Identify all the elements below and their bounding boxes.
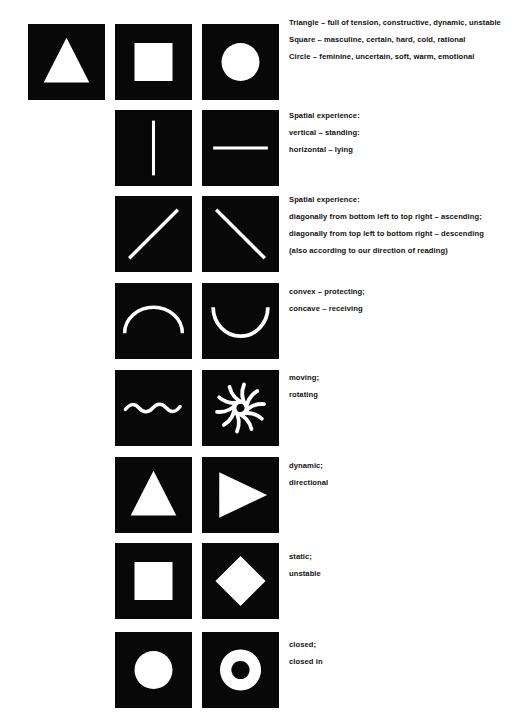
convex-arc-tile	[115, 283, 192, 359]
caption-line: convex – protecting;	[289, 288, 527, 296]
diagonal-descending-icon	[202, 196, 279, 272]
wave-tile	[115, 370, 192, 446]
arc-concave-icon	[202, 283, 279, 359]
caption-line: dynamic;	[289, 462, 527, 470]
shape-semantics-sheet: Triangle – full of tension, constructive…	[0, 0, 530, 722]
vertical-line-icon	[115, 110, 192, 186]
concave-arc-tile	[202, 283, 279, 359]
row-moving-rotating-caption: moving;rotating	[289, 374, 527, 399]
caption-line: moving;	[289, 374, 527, 382]
caption-line: rotating	[289, 391, 527, 399]
rightward-triangle-tile	[202, 457, 279, 533]
caption-line: unstable	[289, 570, 527, 578]
caption-line: Spatial experience:	[289, 196, 527, 204]
caption-line: closed in	[289, 658, 527, 666]
caption-line: horizontal – lying	[289, 146, 527, 154]
ring-icon	[202, 632, 279, 708]
triangle-tile	[28, 24, 105, 100]
horizontal-line-icon	[202, 110, 279, 186]
upward-triangle-tile	[115, 457, 192, 533]
caption-line: closed;	[289, 641, 527, 649]
caption-line: (also according to our direction of read…	[289, 247, 527, 255]
caption-line: diagonally from bottom left to top right…	[289, 213, 527, 221]
vertical-line-tile	[115, 110, 192, 186]
square-static-tile	[115, 543, 192, 619]
pinwheel-icon	[202, 370, 279, 446]
descending-diagonal-tile	[202, 196, 279, 272]
caption-line: static;	[289, 553, 527, 561]
row-dynamic-directional-caption: dynamic;directional	[289, 462, 527, 487]
caption-line: Circle – feminine, uncertain, soft, warm…	[289, 53, 527, 61]
circle-icon	[202, 24, 279, 100]
ring-tile	[202, 632, 279, 708]
horizontal-line-tile	[202, 110, 279, 186]
wave-icon	[115, 370, 192, 446]
circle-tile	[202, 24, 279, 100]
square-icon	[115, 543, 192, 619]
row-closed-closed-in-caption: closed;closed in	[289, 641, 527, 666]
row-static-unstable-caption: static;unstable	[289, 553, 527, 578]
caption-line: Spatial experience:	[289, 112, 527, 120]
row-convex-concave-caption: convex – protecting;concave – receiving	[289, 288, 527, 313]
caption-line: diagonally from top left to bottom right…	[289, 230, 527, 238]
caption-line: directional	[289, 479, 527, 487]
square-icon	[115, 24, 192, 100]
caption-line: Square – masculine, certain, hard, cold,…	[289, 36, 527, 44]
triangle-right-icon	[202, 457, 279, 533]
row-vertical-horizontal-caption: Spatial experience:vertical – standing:h…	[289, 112, 527, 154]
diagonal-ascending-icon	[115, 196, 192, 272]
circle-icon	[115, 632, 192, 708]
triangle-icon	[115, 457, 192, 533]
triangle-icon	[28, 24, 105, 100]
caption-line: concave – receiving	[289, 305, 527, 313]
disc-tile	[115, 632, 192, 708]
diamond-icon	[202, 543, 279, 619]
arc-convex-icon	[115, 283, 192, 359]
square-tile	[115, 24, 192, 100]
row-diagonals-caption: Spatial experience:diagonally from botto…	[289, 196, 527, 255]
diamond-tile	[202, 543, 279, 619]
caption-line: vertical – standing:	[289, 129, 527, 137]
ascending-diagonal-tile	[115, 196, 192, 272]
spiral-tile	[202, 370, 279, 446]
caption-line: Triangle – full of tension, constructive…	[289, 19, 527, 27]
row-basic-shapes-caption: Triangle – full of tension, constructive…	[289, 19, 527, 61]
